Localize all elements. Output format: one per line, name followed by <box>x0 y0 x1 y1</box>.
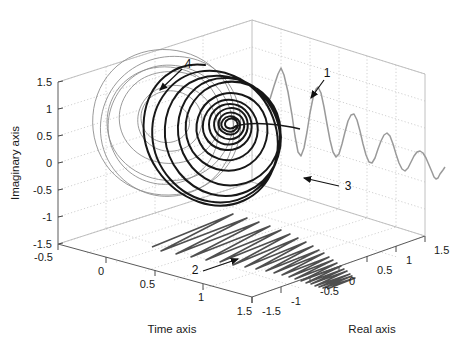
spiral-back-wall-inner <box>138 85 202 151</box>
imaginary-tick-label: 0 <box>46 157 52 169</box>
axis-label-time: Time axis <box>148 323 197 335</box>
time-tick-label: 0 <box>98 265 104 277</box>
real-tick-label: -1.5 <box>262 305 281 317</box>
imaginary-tick-label: -1.5 <box>33 238 52 250</box>
annotation-2-label: 2 <box>192 263 199 277</box>
axis-label-real: Real axis <box>348 323 396 335</box>
time-tick-label: 1.5 <box>237 305 252 317</box>
real-tick-label: -0.5 <box>320 285 339 297</box>
annotation-1-label: 1 <box>324 66 331 80</box>
annotation-3-label: 3 <box>345 179 352 193</box>
plot-canvas: 4 1 3 2 1.5 1 0.5 0 -0.5 -1 -1.5 -0.5 0 … <box>0 0 458 343</box>
figure-3d-plot: 4 1 3 2 1.5 1 0.5 0 -0.5 -1 -1.5 -0.5 0 … <box>0 0 458 343</box>
real-tick-label: 1.5 <box>434 244 449 256</box>
time-tick-label: 1 <box>198 291 204 303</box>
time-tick-label: -0.5 <box>34 251 53 263</box>
curve-damped-sinusoid-right-wall <box>270 68 445 179</box>
imaginary-axis-ticks <box>58 81 63 244</box>
real-tick-label: 1 <box>406 254 412 266</box>
time-tick-label: 0.5 <box>140 278 155 290</box>
imaginary-tick-label: 1.5 <box>37 76 52 88</box>
annotation-4-label: 4 <box>185 57 192 71</box>
axis-lines <box>58 20 425 297</box>
imaginary-tick-label: -0.5 <box>33 184 52 196</box>
damped-sinusoid-path <box>270 68 445 179</box>
annotation-3: 3 <box>304 178 352 193</box>
imaginary-tick-label: 0.5 <box>37 130 52 142</box>
annotation-2: 2 <box>192 259 238 277</box>
grid-back-right-wall <box>252 20 425 236</box>
axis-label-imaginary: Imaginary axis <box>9 126 21 200</box>
imaginary-tick-label: 1 <box>46 103 52 115</box>
real-tick-label: -1 <box>291 295 301 307</box>
annotation-3-arrow <box>304 178 339 186</box>
real-tick-label: 0.5 <box>377 264 392 276</box>
real-tick-label: 0 <box>349 275 355 287</box>
imaginary-axis-tick-labels: 1.5 1 0.5 0 -0.5 -1 -1.5 <box>33 76 52 250</box>
imaginary-tick-label: -1 <box>42 211 52 223</box>
